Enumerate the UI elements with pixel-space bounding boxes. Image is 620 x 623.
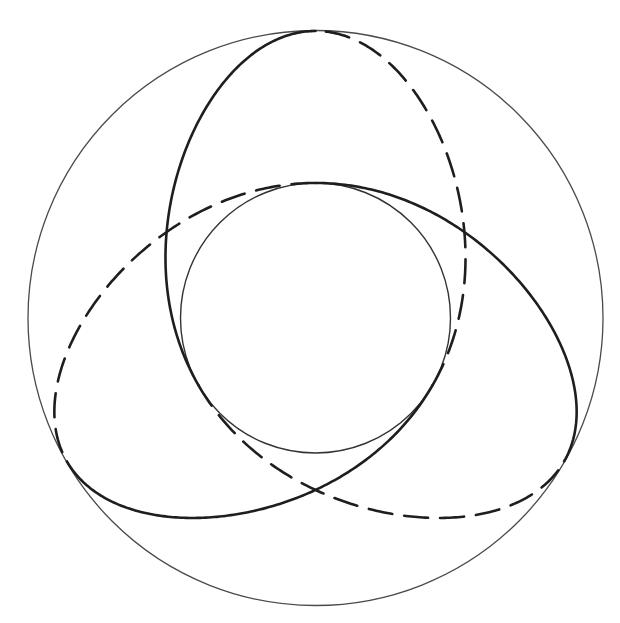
background [0,0,620,623]
diagram-canvas [0,0,620,623]
